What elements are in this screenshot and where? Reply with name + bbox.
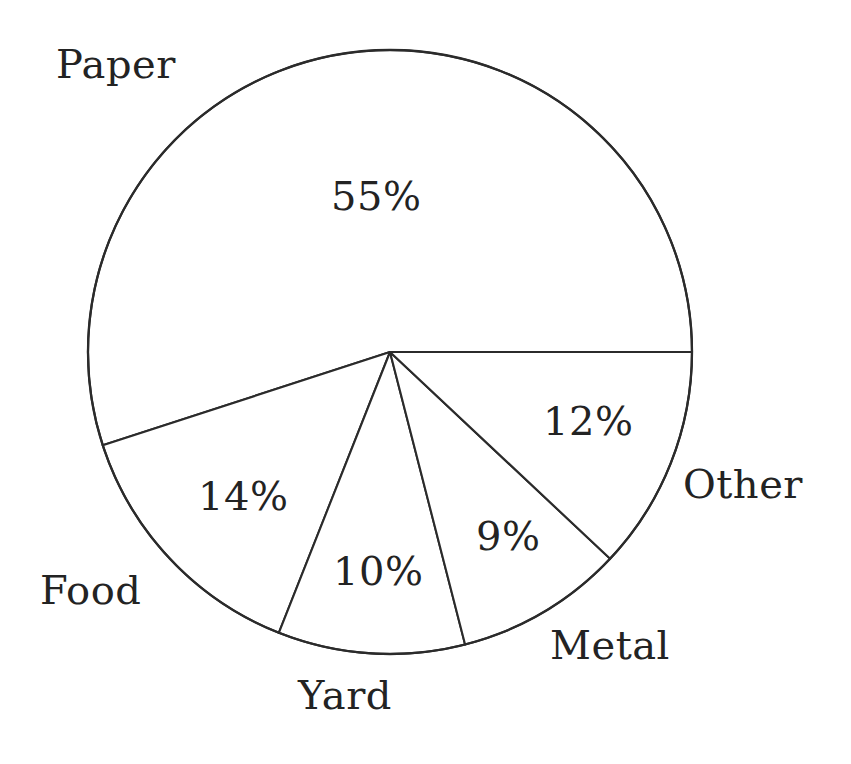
- pie-value-other: 12%: [543, 401, 633, 441]
- pie-chart-figure: Paper Food Yard Metal Other 55% 14% 10% …: [0, 0, 851, 764]
- pie-chart-svg: [0, 0, 851, 764]
- pie-label-food: Food: [40, 570, 141, 610]
- pie-value-food: 14%: [198, 476, 288, 516]
- pie-value-metal: 9%: [476, 516, 540, 556]
- pie-label-yard: Yard: [298, 675, 392, 715]
- pie-label-paper: Paper: [56, 44, 176, 84]
- pie-label-other: Other: [683, 464, 803, 504]
- pie-value-yard: 10%: [333, 551, 423, 591]
- pie-label-metal: Metal: [550, 625, 670, 665]
- pie-value-paper: 55%: [331, 176, 421, 216]
